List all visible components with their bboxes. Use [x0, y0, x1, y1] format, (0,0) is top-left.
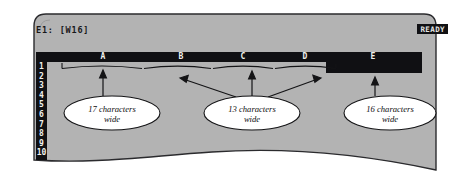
callout-16-line2: wide: [382, 114, 398, 124]
callout-13-line2: wide: [244, 114, 260, 124]
callout-17: 17 characterswide: [64, 96, 160, 130]
callout-arrows: [100, 70, 379, 97]
callout-16: 16 characterswide: [344, 96, 436, 130]
callout-group: 17 characterswide13 characterswide16 cha…: [64, 96, 436, 130]
callout-13-line1: 13 characters: [228, 104, 276, 114]
column-width-braces: [62, 63, 336, 69]
callout-13: 13 characterswide: [204, 96, 300, 130]
screenshot-stage: E1: [W16] READY ABCDE 12345678910: [0, 0, 470, 186]
callout-17-line1: 17 characters: [88, 104, 136, 114]
callout-17-line2: wide: [104, 114, 120, 124]
annotation-overlay: 17 characterswide13 characterswide16 cha…: [0, 0, 470, 186]
callout-16-line1: 16 characters: [366, 104, 414, 114]
